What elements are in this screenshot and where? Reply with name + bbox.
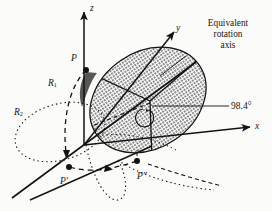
point-P-prime-label: P′ [60,176,68,186]
rotation-R2-subscript: 2 [20,110,23,117]
equivalent-rotation-axis-figure: Equivalent rotation axis 98.4° z y x P P… [0,0,272,211]
z-axis-label: z [90,3,94,13]
rotation-R1-label: R1 [48,78,57,89]
equivalent-rotation-axis-line-2 [30,146,152,200]
dashed-tail-right [148,164,222,186]
equivalent-axis-line3: axis [221,40,236,50]
rotation-R2-label: R2 [14,107,23,118]
point-P-double-prime-label: P″ [137,171,147,181]
point-P-label: P [71,53,77,63]
equivalent-axis-line2: rotation [214,29,243,39]
x-axis-label: x [255,121,259,131]
y-axis-label: y [176,23,180,33]
R2-rotation-arc [70,161,137,172]
equivalent-rotation-axis-label: Equivalent rotation axis [186,18,270,51]
bottom-dotted-trace-right [118,160,214,190]
equivalent-axis-line1: Equivalent [208,18,248,28]
rotation-R1-subscript: 1 [54,81,57,88]
angle-label: 98.4° [231,101,251,111]
